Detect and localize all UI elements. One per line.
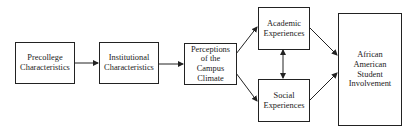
node-african-american-student-involvement: African American Student Involvement [338, 13, 402, 126]
node-label: Perceptions of the Campus Climate [191, 45, 230, 83]
node-label: African American Student Involvement [349, 50, 391, 88]
node-label: Institutional Characteristics [104, 53, 154, 72]
arrow-perceptions-to-social [236, 73, 257, 101]
node-label: Social Experiences [264, 91, 305, 110]
node-label: Academic Experiences [264, 19, 305, 38]
node-institutional-characteristics: Institutional Characteristics [99, 42, 159, 84]
node-label: Precollege Characteristics [20, 53, 70, 72]
node-academic-experiences: Academic Experiences [258, 7, 310, 50]
node-social-experiences: Social Experiences [258, 79, 310, 122]
arrow-perceptions-to-academic [236, 27, 257, 54]
arrow-social-to-involvement [309, 73, 337, 101]
arrow-academic-to-involvement [309, 27, 337, 55]
node-precollege-characteristics: Precollege Characteristics [15, 42, 75, 84]
node-perceptions-of-campus-climate: Perceptions of the Campus Climate [184, 43, 237, 85]
